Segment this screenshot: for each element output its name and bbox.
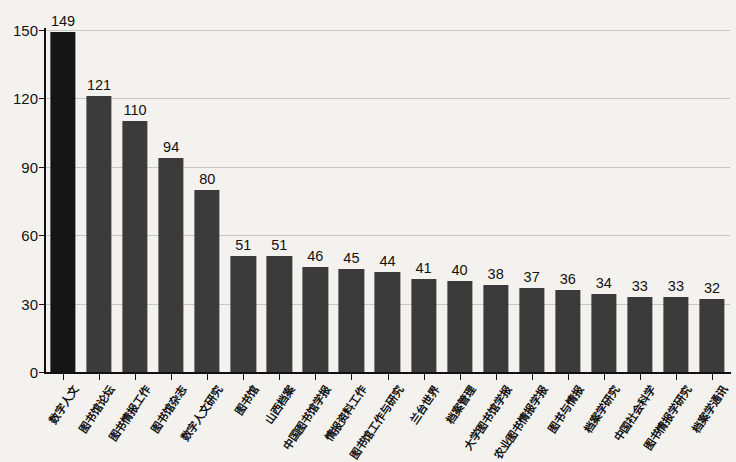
bar-value-label: 32 [704, 280, 720, 296]
y-axis-tick-label: 120 [0, 90, 38, 107]
x-axis-ticks: 数字人文图书馆论坛图书情报工作图书馆杂志数字人文研究图书馆山西档案中国图书馆学报… [45, 374, 730, 452]
y-axis-tick-label: 150 [0, 22, 38, 39]
bar-value-label: 38 [488, 266, 504, 282]
x-axis-tick-mark [243, 374, 244, 380]
bar-slot: 37 [514, 30, 550, 372]
x-axis-tick-mark [99, 374, 100, 380]
bar-value-label: 121 [87, 77, 111, 93]
x-axis-tick-mark [532, 374, 533, 380]
x-axis-category-label: 图书馆 [230, 382, 261, 418]
x-axis-category-label: 数字人文 [44, 382, 81, 426]
x-axis-tick-mark [604, 374, 605, 380]
x-axis-tick-mark [351, 374, 352, 380]
bar-slot: 121 [81, 30, 117, 372]
bar [303, 267, 328, 372]
bar [555, 290, 580, 372]
x-axis-tick-mark [676, 374, 677, 380]
bar-slot: 36 [550, 30, 586, 372]
bars-layer: 1491211109480515146454441403837363433333… [45, 30, 730, 372]
bar-slot: 44 [369, 30, 405, 372]
bar-slot: 149 [45, 30, 81, 372]
x-axis-tick-mark [279, 374, 280, 380]
bar-value-label: 44 [379, 253, 395, 269]
x-axis-category-label: 兰台世界 [405, 382, 442, 426]
bar [267, 256, 292, 372]
bar-slot: 33 [622, 30, 658, 372]
bar-slot: 46 [297, 30, 333, 372]
bar [375, 272, 400, 372]
bar-value-label: 80 [199, 171, 215, 187]
bar-slot: 38 [478, 30, 514, 372]
bar [591, 294, 616, 372]
x-axis-tick-mark [460, 374, 461, 380]
bar-value-label: 149 [51, 13, 75, 29]
bar [699, 299, 724, 372]
bar-value-label: 94 [163, 139, 179, 155]
bar [627, 297, 652, 372]
bar-slot: 32 [694, 30, 730, 372]
x-axis-tick-mark [424, 374, 425, 380]
bar-value-label: 110 [124, 102, 147, 118]
x-axis-category-label: 山西档案 [260, 382, 297, 426]
bar-slot: 51 [261, 30, 297, 372]
x-axis-category-text: 兰台世界 [405, 382, 442, 426]
x-axis-tick-mark [388, 374, 389, 380]
bar [195, 190, 220, 372]
y-axis-tick-label: 90 [0, 158, 38, 175]
x-axis-tick-mark [135, 374, 136, 380]
y-axis-line [44, 28, 46, 374]
x-axis-tick-mark [171, 374, 172, 380]
x-axis-category-text: 数字人文 [44, 382, 81, 426]
bar-slot: 45 [333, 30, 369, 372]
bar-slot: 34 [586, 30, 622, 372]
bar [483, 285, 508, 372]
bar [339, 269, 364, 372]
x-axis-tick-mark [568, 374, 569, 380]
x-axis-tick-mark [640, 374, 641, 380]
bar [411, 279, 436, 372]
bar [663, 297, 688, 372]
bar-value-label: 41 [415, 260, 431, 276]
bar [86, 96, 111, 372]
bar-slot: 110 [117, 30, 153, 372]
bar [447, 281, 472, 372]
bar-value-label: 46 [307, 248, 323, 264]
bar-value-label: 34 [596, 275, 612, 291]
x-axis-tick-mark [207, 374, 208, 380]
bar-value-label: 33 [668, 278, 684, 294]
x-axis-tick-mark [315, 374, 316, 380]
bar-value-label: 45 [343, 250, 359, 266]
bar [50, 32, 75, 372]
x-axis-category-text: 山西档案 [260, 382, 297, 426]
x-axis-category-text: 档案管理 [441, 382, 478, 426]
bar-slot: 94 [153, 30, 189, 372]
y-axis-tick-label: 0 [0, 364, 38, 381]
bar-value-label: 37 [524, 269, 540, 285]
bar [519, 288, 544, 372]
bar-value-label: 51 [235, 237, 251, 253]
bar-slot: 80 [189, 30, 225, 372]
bar-slot: 51 [225, 30, 261, 372]
bar [231, 256, 256, 372]
bar-slot: 33 [658, 30, 694, 372]
x-axis-tick-mark [712, 374, 713, 380]
x-axis-category-label: 档案管理 [441, 382, 478, 426]
bar-value-label: 51 [271, 237, 287, 253]
y-axis-tick-label: 60 [0, 227, 38, 244]
x-axis-tick-mark [496, 374, 497, 380]
bar [122, 121, 147, 372]
bar-slot: 40 [442, 30, 478, 372]
bar-slot: 41 [406, 30, 442, 372]
bar [159, 158, 184, 372]
bar-value-label: 33 [632, 278, 648, 294]
y-axis-tick-label: 30 [0, 295, 38, 312]
x-axis-category-text: 图书馆 [230, 382, 261, 418]
bar-value-label: 36 [560, 271, 576, 287]
bar-value-label: 40 [452, 262, 468, 278]
x-axis-tick-mark [63, 374, 64, 380]
